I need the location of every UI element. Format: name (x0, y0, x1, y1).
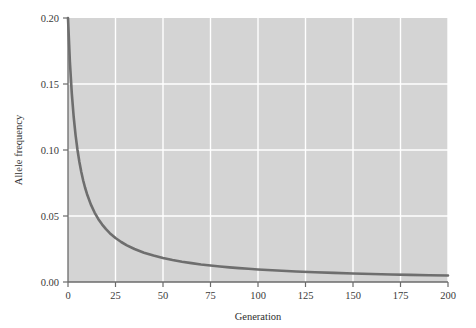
x-tick-label: 200 (440, 290, 456, 301)
x-tick-label: 0 (65, 290, 70, 301)
x-tick-label: 125 (298, 290, 314, 301)
x-tick-label: 150 (345, 290, 361, 301)
x-tick-label: 25 (110, 290, 121, 301)
y-tick-label: 0.05 (41, 211, 59, 222)
y-tick-label: 0.20 (41, 13, 59, 24)
y-tick-label: 0.00 (41, 277, 59, 288)
x-tick-label: 50 (158, 290, 169, 301)
x-axis-title: Generation (235, 311, 282, 322)
y-tick-label: 0.15 (41, 79, 59, 90)
allele-frequency-line-chart: 0255075100125150175200 0.000.050.100.150… (0, 0, 476, 328)
chart-container: 0255075100125150175200 0.000.050.100.150… (0, 0, 476, 328)
x-tick-label: 75 (205, 290, 216, 301)
x-tick-label: 175 (393, 290, 409, 301)
y-tick-label: 0.10 (41, 145, 59, 156)
x-tick-label: 100 (250, 290, 266, 301)
y-axis-title: Allele frequency (13, 114, 24, 185)
